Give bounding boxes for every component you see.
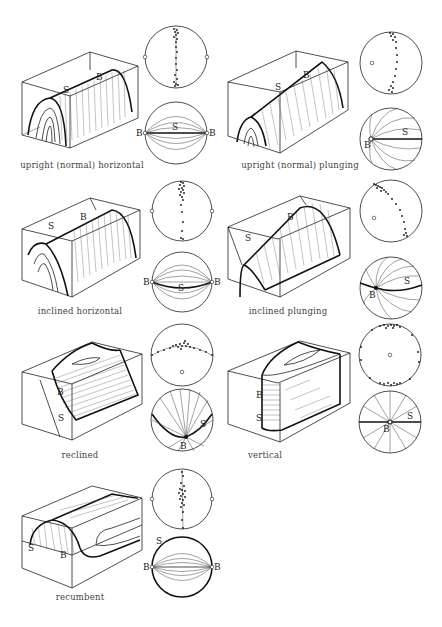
label-s: S <box>407 411 413 421</box>
label-b-left: B <box>143 562 150 572</box>
great-circle-stereonet: S B B <box>143 252 221 312</box>
label-b: B <box>364 140 371 150</box>
label-s: S <box>63 85 69 95</box>
label-b-right: B <box>214 562 221 572</box>
pole-stereonet <box>143 26 209 88</box>
label-b: B <box>60 550 67 560</box>
great-circle-stereonet: S B <box>151 389 213 451</box>
caption-inclined-horizontal: inclined horizontal <box>38 306 122 316</box>
label-b: B <box>180 441 187 451</box>
panel-inclined-plunging: S B S B <box>228 180 422 319</box>
panel-recumbent: S B S B B <box>22 469 221 597</box>
pole-stereonet <box>360 180 422 242</box>
great-circle-stereonet: S B B <box>143 536 221 597</box>
caption-recumbent: recumbent <box>56 592 105 602</box>
caption-reclined: reclined <box>62 450 99 460</box>
block-diagram: S B <box>228 196 350 297</box>
caption-inclined-plunging: inclined plunging <box>249 306 328 316</box>
pole-stereonet <box>359 324 421 386</box>
pole-stereonet <box>150 469 214 529</box>
panel-upright-horizontal: S B S B B <box>22 26 216 164</box>
caption-vertical: vertical <box>248 450 282 460</box>
label-b: B <box>80 212 87 222</box>
label-b: B <box>256 390 263 400</box>
label-s: S <box>48 221 54 231</box>
label-b-left: B <box>143 277 150 287</box>
great-circle-stereonet: S B B <box>136 102 216 164</box>
label-s: S <box>156 536 162 546</box>
pole-stereonet <box>151 324 213 386</box>
block-diagram: S B <box>228 51 348 153</box>
great-circle-stereonet: S B <box>360 257 422 319</box>
label-s: S <box>58 413 64 423</box>
block-diagram: S B <box>22 198 140 297</box>
pole-stereonet <box>150 181 214 241</box>
label-b-left: B <box>136 128 143 138</box>
caption-upright-plunging: upright (normal) plunging <box>241 160 359 170</box>
label-b: B <box>369 290 376 300</box>
panel-inclined-horizontal: S B S B B <box>22 181 221 312</box>
block-diagram: B S <box>228 341 350 442</box>
label-b: B <box>287 212 294 222</box>
caption-upright-horizontal: upright (normal) horizontal <box>20 160 144 170</box>
block-diagram: S B <box>22 486 142 588</box>
block-diagram: S B <box>22 52 138 148</box>
label-s: S <box>256 413 262 423</box>
label-s: S <box>245 233 251 243</box>
label-s: S <box>28 543 34 553</box>
label-s: S <box>178 283 184 293</box>
label-b-right: B <box>209 128 216 138</box>
panel-reclined: B S S B <box>22 324 213 451</box>
label-s: S <box>200 419 206 429</box>
label-b: B <box>96 72 103 82</box>
label-b: B <box>57 387 64 397</box>
panel-upright-plunging: S B S B <box>228 32 422 170</box>
pole-stereonet <box>360 32 422 94</box>
great-circle-stereonet: S B <box>360 108 422 170</box>
panel-vertical: B S S B <box>228 324 421 453</box>
label-b: B <box>303 70 310 80</box>
label-s: S <box>275 82 281 92</box>
block-diagram: B S <box>22 342 142 440</box>
label-s: S <box>404 276 410 286</box>
label-s: S <box>402 127 408 137</box>
great-circle-stereonet: S B <box>359 391 421 453</box>
label-b-right: B <box>214 277 221 287</box>
label-b: B <box>383 424 390 434</box>
label-s: S <box>172 122 178 132</box>
